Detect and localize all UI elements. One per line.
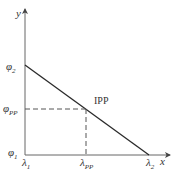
y-axis-label: y bbox=[15, 7, 21, 19]
y-tick-phi1: φ1 bbox=[8, 146, 18, 161]
ipp-label: IPP bbox=[94, 95, 109, 106]
ipp-diagram: y x φ2 φPP φ1 λ1 λPP λ2 IPP bbox=[0, 0, 178, 183]
trend-line bbox=[25, 65, 149, 155]
x-tick-lambda2: λ2 bbox=[145, 156, 155, 171]
x-axis-label: x bbox=[159, 155, 165, 167]
y-tick-phipp: φPP bbox=[3, 102, 18, 117]
y-tick-phi2: φ2 bbox=[6, 60, 16, 75]
x-tick-lambdapp: λPP bbox=[79, 156, 94, 171]
x-tick-lambda1: λ1 bbox=[21, 156, 30, 171]
